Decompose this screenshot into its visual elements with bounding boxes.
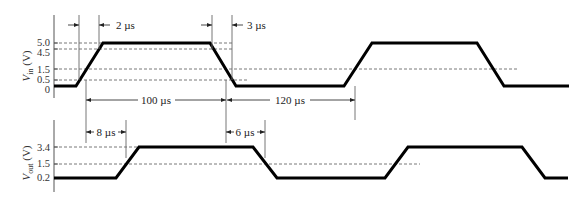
- vout-tick-0-2: 0.2: [37, 172, 50, 183]
- timing-diagram: 5.0 4.5 1.5 0.5 0 Vin (V) 2 µs 3 µs: [0, 0, 588, 200]
- vin-tick-0: 0: [45, 84, 50, 95]
- low-period-label: 120 µs: [275, 94, 305, 106]
- vout-waveform: [54, 147, 568, 178]
- vout-tick-3-4: 3.4: [37, 142, 51, 153]
- vout-plot: 3.4 1.5 0.2 Vout (V) 8 µs 6 µs: [20, 120, 568, 192]
- vout-y-label: Vout (V): [20, 145, 35, 180]
- vin-tick-4-5: 4.5: [37, 47, 50, 58]
- vin-waveform: [54, 43, 569, 86]
- vin-y-label: Vin (V): [20, 50, 35, 81]
- svg-text:Vout (V): Vout (V): [20, 145, 35, 180]
- high-period-label: 100 µs: [141, 94, 171, 106]
- rise-delay-label: 8 µs: [97, 126, 116, 138]
- svg-text:Vin (V): Vin (V): [20, 50, 35, 81]
- fall-delay-label: 6 µs: [236, 126, 255, 138]
- vin-plot: 5.0 4.5 1.5 0.5 0 Vin (V) 2 µs 3 µs: [20, 15, 569, 143]
- vout-tick-1-5: 1.5: [37, 158, 50, 169]
- rise-time-label: 2 µs: [116, 19, 135, 31]
- fall-time-label: 3 µs: [247, 19, 266, 31]
